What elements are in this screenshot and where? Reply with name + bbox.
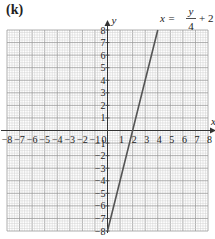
x-tick-label: 4 (157, 134, 162, 145)
y-tick-label: 5 (101, 62, 106, 73)
svg-text:y: y (188, 5, 194, 17)
x-tick-label: −4 (52, 134, 63, 145)
equation-label: x =y4+ 2 (159, 5, 213, 32)
y-tick-label: −8 (95, 226, 106, 237)
y-tick-label: 6 (101, 50, 106, 61)
x-tick-label: 7 (194, 134, 199, 145)
svg-text:4: 4 (188, 20, 194, 32)
y-tick-label: −3 (95, 163, 106, 174)
svg-text:x =: x = (159, 12, 175, 24)
x-tick-label: 6 (182, 134, 187, 145)
y-tick-label: 4 (101, 75, 106, 86)
x-tick-label: −8 (2, 134, 13, 145)
x-tick-label: 8 (207, 134, 212, 145)
y-tick-label: −2 (95, 150, 106, 161)
y-tick-label: 2 (101, 100, 106, 111)
x-tick-label: −5 (39, 134, 50, 145)
x-tick-label: −7 (14, 134, 25, 145)
line-graph: xy−8−7−6−5−4−3−2−1012345678−8−7−6−5−4−3−… (0, 0, 215, 239)
x-axis-label: x (210, 115, 215, 127)
y-axis-label: y (111, 14, 117, 26)
x-tick-label: 2 (132, 134, 137, 145)
x-tick-label: 5 (169, 134, 174, 145)
x-tick-label: 1 (119, 134, 124, 145)
y-tick-label: 3 (101, 87, 106, 98)
svg-text:+ 2: + 2 (199, 12, 213, 24)
y-tick-label: 7 (101, 37, 106, 48)
y-tick-label: 8 (101, 25, 106, 36)
x-tick-label: 3 (144, 134, 149, 145)
y-tick-label: −5 (95, 188, 106, 199)
x-tick-label: −3 (64, 134, 75, 145)
y-tick-label: −6 (95, 200, 106, 211)
x-tick-label: −2 (77, 134, 88, 145)
y-tick-label: −7 (95, 213, 106, 224)
y-tick-label: −4 (95, 175, 106, 186)
y-tick-label: 1 (101, 112, 106, 123)
x-tick-label: −6 (27, 134, 38, 145)
y-tick-label: −1 (95, 138, 106, 149)
